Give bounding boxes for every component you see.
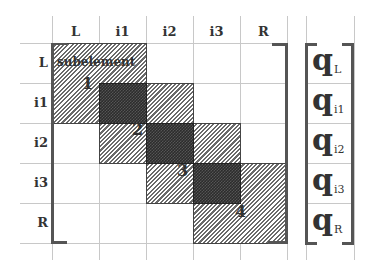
matrix-left-bracket-bottom: [51, 241, 67, 244]
q-subscript: L: [334, 63, 341, 76]
column-header: i3: [193, 24, 240, 39]
matrix-right-bracket: [272, 43, 288, 243]
column-header: i2: [146, 24, 193, 39]
matrix-right-bracket-bottom: [268, 241, 288, 244]
row-label: i1: [8, 95, 48, 110]
q-subscript: i3: [334, 183, 345, 196]
q-symbol: q: [312, 205, 333, 235]
overlap-cell: [193, 163, 241, 204]
q-symbol: q: [312, 165, 333, 195]
row-label: L: [8, 55, 48, 70]
column-header: R: [240, 24, 287, 39]
overlap-cell: [99, 83, 147, 124]
q-subscript: R: [334, 223, 342, 236]
vector-entry: q i2: [306, 123, 354, 163]
q-symbol: q: [312, 125, 333, 155]
vector-entry: q L: [306, 43, 354, 83]
q-symbol: q: [312, 45, 333, 75]
subelement-number-1: 1: [82, 74, 93, 93]
subelement-number-4: 4: [235, 202, 246, 221]
vector-entry: q i1: [306, 83, 354, 123]
subelement-number-2: 2: [132, 120, 143, 139]
q-subscript: i2: [334, 143, 345, 156]
subelement-label: subelement: [57, 55, 135, 69]
row-label: R: [8, 215, 48, 230]
overlap-cell: [146, 123, 194, 164]
subelement-number-3: 3: [177, 161, 188, 180]
vector-entry: q i3: [306, 163, 354, 203]
matrix-left-bracket: [51, 43, 67, 243]
row-label: i2: [8, 135, 48, 150]
column-header: L: [52, 24, 99, 39]
column-header: i1: [99, 24, 146, 39]
row-label: i3: [8, 175, 48, 190]
grid-vline: [354, 16, 355, 260]
vector-entry: q R: [306, 203, 354, 243]
q-symbol: q: [312, 85, 333, 115]
q-subscript: i1: [334, 103, 345, 116]
